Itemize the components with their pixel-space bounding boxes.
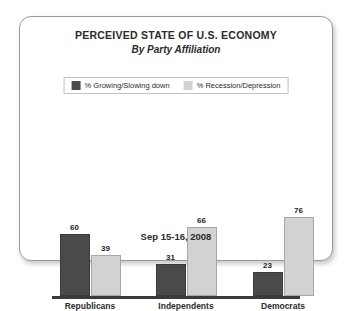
legend-label-growing-slowing-down: % Growing/Slowing down — [85, 81, 170, 90]
bar-group-republicans: 6039 — [47, 196, 133, 296]
bar-item[interactable]: 23 — [253, 261, 283, 296]
chart-legend: % Growing/Slowing down % Recession/Depre… — [64, 77, 289, 94]
legend-swatch-dark — [72, 81, 81, 90]
page-title: PERCEIVED STATE OF U.S. ECONOMY — [20, 29, 332, 42]
bar-growing-slowing-down[interactable] — [156, 264, 186, 296]
legend-swatch-light — [184, 81, 193, 90]
bar-recession-depression[interactable] — [284, 217, 314, 296]
bar-pair: 2376 — [240, 196, 326, 296]
chart-card: PERCEIVED STATE OF U.S. ECONOMY By Party… — [19, 16, 333, 261]
bar-growing-slowing-down[interactable] — [253, 272, 283, 296]
bar-growing-slowing-down[interactable] — [60, 234, 90, 296]
footer-date: Sep 15-16, 2008 — [20, 231, 332, 242]
bar-item[interactable]: 39 — [91, 244, 121, 296]
plot-area: 6039Republicans3166Independents2376Democ… — [38, 109, 314, 209]
chart-subtitle: By Party Affiliation — [20, 43, 332, 56]
bar-item[interactable]: 31 — [156, 253, 186, 296]
bar-value-label: 76 — [294, 206, 303, 215]
bar-group-democrats: 2376 — [240, 196, 326, 296]
legend-entry-growing-slowing-down: % Growing/Slowing down — [72, 81, 170, 90]
bar-value-label: 39 — [101, 244, 110, 253]
bar-recession-depression[interactable] — [91, 255, 121, 296]
bar-item[interactable]: 66 — [187, 216, 217, 296]
bar-value-label: 66 — [197, 216, 206, 225]
bar-item[interactable]: 76 — [284, 206, 314, 296]
x-axis-label-republicans: Republicans — [47, 301, 133, 311]
legend-entry-recession-depression: % Recession/Depression — [184, 81, 281, 90]
bar-pair: 3166 — [143, 196, 229, 296]
x-axis-label-democrats: Democrats — [240, 301, 326, 311]
bar-group-independents: 3166 — [143, 196, 229, 296]
bar-value-label: 23 — [263, 261, 272, 270]
title-block: PERCEIVED STATE OF U.S. ECONOMY By Party… — [20, 29, 332, 56]
x-axis-baseline — [52, 296, 300, 299]
bar-pair: 6039 — [47, 196, 133, 296]
bar-value-label: 31 — [166, 253, 175, 262]
x-axis-label-independents: Independents — [143, 301, 229, 311]
legend-label-recession-depression: % Recession/Depression — [197, 81, 281, 90]
